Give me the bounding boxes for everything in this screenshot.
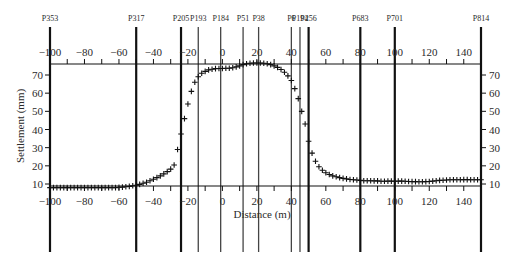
x-tick-label-top: 120 <box>421 46 438 58</box>
pile-label: P814 <box>473 14 489 23</box>
data-point-marker <box>192 79 198 85</box>
x-tick-label-bottom: 140 <box>456 195 473 207</box>
pile-label: P51 <box>237 14 249 23</box>
x-tick-label-top: 140 <box>456 46 473 58</box>
pile-label: P353 <box>42 14 58 23</box>
axes: −100−100−80−80−60−60−40−40−20−2000202040… <box>32 46 501 207</box>
x-tick-label-top: 0 <box>220 46 226 58</box>
y-tick-label-right: 50 <box>489 105 501 117</box>
x-tick-label-top: 60 <box>320 46 332 58</box>
x-axis-label: Distance (m) <box>233 208 290 221</box>
data-point-marker <box>268 62 274 68</box>
x-tick-label-top: 100 <box>387 46 404 58</box>
x-tick-label-bottom: 0 <box>220 195 226 207</box>
y-tick-label-right: 40 <box>489 124 501 136</box>
data-point-marker <box>230 65 236 71</box>
data-point-marker <box>313 158 319 164</box>
pile-label: P683 <box>352 14 368 23</box>
x-tick-label-bottom: 100 <box>387 195 404 207</box>
y-tick-label-left: 30 <box>32 142 44 154</box>
pile-label: P256 <box>300 14 316 23</box>
data-point-marker <box>233 64 239 70</box>
y-axis-label: Settlement (mm) <box>14 89 27 164</box>
data-point-marker <box>168 166 174 172</box>
data-point-marker <box>195 74 201 80</box>
data-point-marker <box>309 150 315 156</box>
data-point-marker <box>285 73 291 79</box>
x-tick-label-bottom: −40 <box>145 195 163 207</box>
pile-label: P184 <box>212 14 228 23</box>
data-points <box>47 60 484 190</box>
x-tick-label-bottom: 20 <box>251 195 263 207</box>
data-point-marker <box>320 167 326 173</box>
y-tick-label-left: 10 <box>32 178 44 190</box>
y-tick-label-right: 10 <box>489 178 501 190</box>
x-tick-label-bottom: −100 <box>39 195 62 207</box>
settlement-chart: P353P317P205P193P184P51P38P6P194P256P683… <box>0 0 510 268</box>
data-point-marker <box>292 86 298 92</box>
data-point-marker <box>189 89 195 95</box>
data-point-marker <box>302 121 308 127</box>
x-tick-label-bottom: −60 <box>110 195 128 207</box>
y-tick-label-left: 60 <box>32 87 44 99</box>
y-tick-label-right: 70 <box>489 69 501 81</box>
data-point-marker <box>133 182 139 188</box>
x-tick-label-top: 80 <box>355 46 367 58</box>
x-tick-label-top: 20 <box>251 46 263 58</box>
data-point-marker <box>140 180 146 186</box>
y-tick-label-right: 20 <box>489 160 501 172</box>
x-tick-label-top: −20 <box>179 46 197 58</box>
y-tick-label-left: 70 <box>32 69 44 81</box>
x-tick-label-bottom: −20 <box>179 195 197 207</box>
x-tick-label-bottom: −80 <box>76 195 94 207</box>
x-tick-label-top: −100 <box>39 46 62 58</box>
x-tick-label-top: −40 <box>145 46 163 58</box>
data-point-marker <box>316 164 322 170</box>
data-point-marker <box>333 174 339 180</box>
data-point-marker <box>282 69 288 75</box>
y-tick-label-left: 20 <box>32 160 44 172</box>
x-tick-label-top: −80 <box>76 46 94 58</box>
x-tick-label-bottom: 80 <box>355 195 367 207</box>
x-tick-label-bottom: 60 <box>320 195 332 207</box>
y-tick-label-left: 40 <box>32 124 44 136</box>
x-tick-label-top: −60 <box>110 46 128 58</box>
data-point-marker <box>264 61 270 67</box>
data-point-marker <box>240 62 246 68</box>
data-point-marker <box>185 101 191 107</box>
y-tick-label-left: 50 <box>32 105 44 117</box>
pile-label: P193 <box>190 14 206 23</box>
x-tick-label-top: 40 <box>286 46 298 58</box>
data-point-marker <box>182 116 188 122</box>
pile-label: P701 <box>387 14 403 23</box>
x-tick-label-bottom: 40 <box>286 195 298 207</box>
data-point-marker <box>175 147 181 153</box>
y-tick-label-right: 30 <box>489 142 501 154</box>
data-point-marker <box>171 162 177 168</box>
y-tick-label-right: 60 <box>489 87 501 99</box>
x-tick-label-bottom: 120 <box>421 195 438 207</box>
data-point-marker <box>306 139 312 145</box>
data-point-marker <box>289 78 295 84</box>
pile-label: P317 <box>128 14 144 23</box>
data-point-marker <box>478 177 484 183</box>
data-point-marker <box>330 173 336 179</box>
pile-label: P205 <box>173 14 189 23</box>
pile-label: P38 <box>252 14 264 23</box>
data-point-marker <box>337 175 343 181</box>
data-point-marker <box>178 131 184 137</box>
